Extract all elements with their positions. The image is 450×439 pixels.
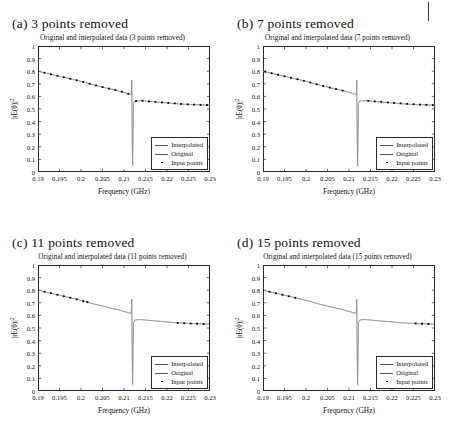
y-tick-label: 1: [32, 262, 35, 269]
legend-line-swatch: [155, 141, 168, 148]
legend-label: Interpolated: [171, 141, 203, 148]
legend-item: Input points: [155, 158, 203, 167]
legend-item: Original: [380, 149, 428, 158]
panel-b: (b) 7 points removed Original and interp…: [225, 0, 450, 219]
legend-dot-swatch: [155, 378, 168, 385]
y-tick-label: 0.7: [252, 80, 260, 87]
y-tick-label: 0.4: [252, 118, 260, 125]
y-tick-label: 0.6: [27, 93, 35, 100]
x-tick-label: 0.225: [181, 394, 196, 401]
legend-label: Interpolated: [396, 360, 428, 367]
y-tick-label: 0.4: [27, 118, 35, 125]
y-tick-label: 0.3: [27, 350, 35, 357]
y-tick-label: 0.1: [27, 156, 35, 163]
plot-title: Original and interpolated data (11 point…: [0, 253, 225, 261]
x-tick-label: 0.205: [95, 175, 110, 182]
y-tick-label: 0.8: [252, 68, 260, 75]
panel-caption: (d) 15 points removed: [237, 235, 361, 251]
y-tick-label: 0.2: [27, 362, 35, 369]
legend-item: Original: [380, 368, 428, 377]
legend: InterpolatedOriginalInput points: [376, 137, 433, 170]
y-tick-label: 0.3: [252, 350, 260, 357]
legend-label: Interpolated: [171, 360, 203, 367]
x-tick-label: 0.22: [161, 394, 173, 401]
x-tick-label: 0.195: [52, 394, 67, 401]
panel-a: (a) 3 points removed Original and interp…: [0, 0, 225, 219]
legend-line-swatch: [155, 360, 168, 367]
y-tick-label: 0.4: [252, 337, 260, 344]
x-axis-title: Frequency (GHz): [263, 406, 435, 415]
y-tick-label: 0.5: [252, 106, 260, 113]
y-tick-label: 0.7: [27, 80, 35, 87]
legend-label: Input points: [171, 378, 203, 385]
x-tick-label: 0.19: [32, 175, 44, 182]
x-tick-label: 0.2: [77, 175, 85, 182]
x-tick-label: 0.225: [181, 175, 196, 182]
x-tick-label: 0.205: [320, 175, 335, 182]
y-tick-label: 0.1: [252, 375, 260, 382]
y-tick-label: 0.6: [27, 312, 35, 319]
x-tick-label: 0.225: [406, 175, 421, 182]
y-tick-label: 0.9: [252, 274, 260, 281]
x-tick-label: 0.215: [363, 175, 378, 182]
x-tick-label: 0.21: [118, 175, 130, 182]
x-tick-label: 0.225: [406, 394, 421, 401]
y-tick-label: 0.5: [27, 106, 35, 113]
y-tick-label: 0.1: [252, 156, 260, 163]
input-points: [38, 289, 210, 325]
legend-item: Interpolated: [380, 140, 428, 149]
legend-label: Original: [171, 150, 193, 157]
y-tick-label: 0.7: [252, 299, 260, 306]
plot-area: 00.10.20.30.40.50.60.70.80.910.190.1950.…: [38, 265, 210, 391]
legend-item: Original: [155, 149, 203, 158]
y-tick-label: 0.7: [27, 299, 35, 306]
y-tick-label: 0.2: [252, 362, 260, 369]
legend-item: Interpolated: [155, 140, 203, 149]
x-tick-label: 0.22: [386, 175, 398, 182]
legend-dot-swatch: [380, 159, 393, 166]
panel-c: (c) 11 points removed Original and inter…: [0, 219, 225, 439]
input-points: [38, 70, 208, 106]
x-tick-label: 0.23: [204, 394, 216, 401]
legend-label: Original: [396, 369, 418, 376]
x-tick-label: 0.215: [138, 175, 153, 182]
x-axis-title: Frequency (GHz): [38, 406, 210, 415]
y-tick-label: 1: [257, 262, 260, 269]
y-tick-label: 0.4: [27, 337, 35, 344]
legend-label: Interpolated: [396, 141, 428, 148]
y-tick-label: 0.8: [27, 68, 35, 75]
x-tick-label: 0.215: [363, 394, 378, 401]
x-tick-label: 0.23: [429, 175, 441, 182]
x-tick-label: 0.22: [161, 175, 173, 182]
panel-caption: (b) 7 points removed: [237, 16, 354, 32]
x-tick-label: 0.2: [302, 394, 310, 401]
legend-line-swatch: [380, 150, 393, 157]
y-tick-label: 0.8: [252, 287, 260, 294]
x-tick-label: 0.195: [277, 394, 292, 401]
panel-caption: (c) 11 points removed: [12, 235, 135, 251]
plot-title: Original and interpolated data (7 points…: [225, 34, 450, 42]
legend-label: Input points: [396, 378, 428, 385]
x-tick-label: 0.205: [320, 394, 335, 401]
legend-label: Original: [396, 150, 418, 157]
y-tick-label: 0.8: [27, 287, 35, 294]
legend: InterpolatedOriginalInput points: [376, 356, 433, 389]
legend: InterpolatedOriginalInput points: [151, 137, 208, 170]
legend-item: Input points: [380, 377, 428, 386]
legend-line-swatch: [155, 150, 168, 157]
y-tick-label: 0.6: [252, 312, 260, 319]
legend-line-swatch: [380, 141, 393, 148]
page-edge-mark: [428, 2, 429, 21]
x-tick-label: 0.23: [429, 394, 441, 401]
panel-d: (d) 15 points removed Original and inter…: [225, 219, 450, 439]
y-tick-label: 0.5: [252, 325, 260, 332]
legend-line-swatch: [380, 369, 393, 376]
legend-item: Interpolated: [155, 359, 203, 368]
legend-line-swatch: [155, 369, 168, 376]
x-tick-label: 0.22: [386, 394, 398, 401]
plot-area: 00.10.20.30.40.50.60.70.80.910.190.1950.…: [263, 46, 435, 172]
figure-panel-grid: (a) 3 points removed Original and interp…: [0, 0, 450, 439]
legend-label: Original: [171, 369, 193, 376]
legend-dot-swatch: [155, 159, 168, 166]
x-tick-label: 0.19: [257, 394, 269, 401]
